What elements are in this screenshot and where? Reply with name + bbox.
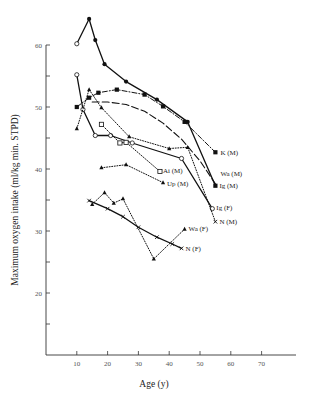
marker-filled-circle: [124, 79, 128, 83]
marker-filled-triangle: [127, 134, 131, 138]
series-line: [101, 165, 163, 183]
y-tick-label: 60: [35, 42, 43, 50]
series-label: N (F): [186, 245, 202, 253]
series-wa-f: [90, 190, 187, 260]
marker-filled-triangle: [161, 180, 165, 184]
series-ai-m: [99, 122, 162, 173]
marker-filled-triangle: [102, 190, 106, 194]
marker-open-circle: [179, 156, 183, 160]
marker-open-square: [118, 141, 122, 145]
series-label: Wa (F): [189, 225, 209, 233]
marker-filled-square: [75, 105, 79, 109]
x-axis-title: Age (y): [139, 379, 168, 390]
marker-filled-triangle: [87, 87, 91, 91]
marker-open-circle: [75, 73, 79, 77]
marker-x: [214, 220, 218, 224]
series-label: N (M): [219, 218, 237, 226]
marker-filled-triangle: [75, 126, 79, 130]
series-label: Up (M): [167, 180, 189, 188]
marker-filled-triangle: [124, 162, 128, 166]
marker-open-circle: [75, 42, 79, 46]
x-tick-label: 40: [166, 360, 174, 368]
marker-open-square: [158, 169, 162, 173]
marker-filled-circle: [93, 38, 97, 42]
series-line: [77, 90, 216, 222]
marker-filled-circle: [102, 62, 106, 66]
marker-filled-square: [115, 88, 119, 92]
series-label: Ig (M): [219, 182, 238, 190]
marker-open-circle: [130, 141, 134, 145]
series-up-m: [99, 162, 165, 184]
marker-filled-square: [96, 91, 100, 95]
marker-filled-square: [87, 96, 91, 100]
series-n-f: [87, 199, 183, 250]
series-line: [77, 90, 216, 153]
x-tick-label: 70: [258, 360, 266, 368]
marker-open-circle: [93, 133, 97, 137]
series-line: [92, 193, 184, 259]
series-k-m: [75, 88, 218, 155]
series-label: K (M): [220, 149, 238, 157]
series-label: Wa (M): [220, 170, 242, 178]
oxygen-intake-chart: 10203040506070 2030405060 Age (y) Maximu…: [0, 0, 312, 398]
marker-filled-triangle: [183, 227, 187, 231]
marker-filled-circle: [155, 97, 159, 101]
y-tick-label: 50: [35, 104, 43, 112]
marker-filled-circle: [87, 17, 91, 21]
marker-filled-square: [161, 104, 165, 108]
marker-filled-square: [183, 120, 187, 124]
marker-filled-square: [213, 150, 217, 154]
marker-filled-square: [142, 93, 146, 97]
y-tick-label: 30: [35, 228, 43, 236]
marker-open-square: [99, 122, 103, 126]
series-line: [89, 201, 181, 249]
marker-filled-triangle: [121, 196, 125, 200]
marker-filled-triangle: [99, 165, 103, 169]
x-tick-label: 60: [227, 360, 235, 368]
y-tick-label: 40: [35, 166, 43, 174]
y-tick-label: 20: [35, 290, 43, 298]
marker-filled-triangle: [152, 257, 156, 261]
y-axis-title: Maximum oxygen intake (ml/kg min. STPD): [10, 114, 21, 286]
axes: 10203040506070 2030405060 Age (y) Maximu…: [10, 42, 296, 391]
x-tick-label: 20: [104, 360, 112, 368]
series-label: Ig (F): [216, 204, 233, 212]
series-layer: [75, 17, 218, 261]
series-label: Ai (M): [163, 167, 183, 175]
marker-open-square: [124, 140, 128, 144]
x-tick-label: 10: [73, 360, 81, 368]
x-tick-label: 50: [197, 360, 205, 368]
series-line: [101, 124, 160, 171]
x-tick-label: 30: [135, 360, 143, 368]
